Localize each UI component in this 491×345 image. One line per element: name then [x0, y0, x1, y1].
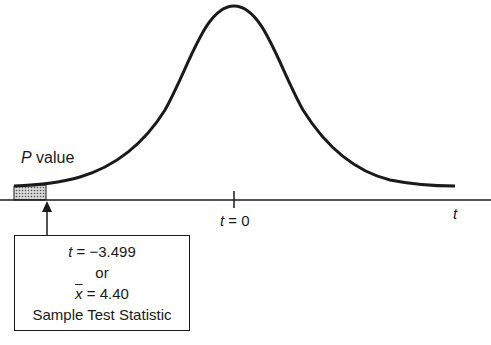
center-label: t = 0: [220, 213, 250, 228]
axis-label: t: [453, 206, 457, 221]
p-value-text: value: [32, 149, 75, 166]
sample-test-statistic-box: t = −3.499 or x = 4.40 Sample Test Stati…: [14, 235, 190, 331]
t-value: = −3.499: [72, 243, 135, 260]
p-value-p: P: [21, 149, 32, 166]
or-line: or: [95, 262, 108, 283]
xbar-line: x = 4.40: [75, 283, 129, 304]
t-statistic-line: t = −3.499: [68, 241, 136, 262]
t-distribution-curve: [14, 6, 455, 186]
xbar-var: x: [75, 285, 83, 302]
center-eq: = 0: [224, 212, 249, 229]
caption-line: Sample Test Statistic: [33, 304, 172, 325]
xbar-value: = 4.40: [83, 285, 129, 302]
arrow-up-icon: [42, 201, 52, 212]
p-value-label: P value: [21, 150, 74, 166]
